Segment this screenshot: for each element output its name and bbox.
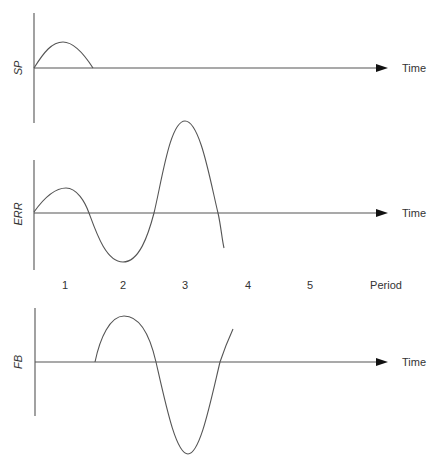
period-axis: 1 2 3 4 5 Period bbox=[62, 279, 402, 291]
period-tick-4: 4 bbox=[245, 279, 251, 291]
period-tick-5: 5 bbox=[307, 279, 313, 291]
err-ylabel: ERR bbox=[12, 202, 24, 225]
fb-time-label: Time bbox=[402, 356, 426, 368]
fb-ylabel: FB bbox=[12, 355, 24, 369]
period-tick-2: 2 bbox=[120, 279, 126, 291]
sp-time-label: Time bbox=[402, 62, 426, 74]
period-tick-1: 1 bbox=[62, 279, 68, 291]
err-curve bbox=[34, 121, 224, 262]
err-time-label: Time bbox=[402, 207, 426, 219]
sp-arrow-icon bbox=[376, 64, 388, 72]
sp-curve bbox=[34, 42, 93, 68]
fb-plot: FB Time bbox=[12, 308, 426, 454]
fb-arrow-icon bbox=[376, 358, 388, 366]
err-plot: ERR Time bbox=[12, 121, 426, 270]
period-tick-3: 3 bbox=[182, 279, 188, 291]
sp-plot: SP Time bbox=[12, 13, 426, 123]
fb-curve bbox=[95, 316, 233, 454]
period-label: Period bbox=[370, 279, 402, 291]
err-arrow-icon bbox=[376, 209, 388, 217]
sp-ylabel: SP bbox=[12, 60, 24, 75]
timing-diagram: SP Time ERR Time 1 2 3 4 5 Period FB Tim… bbox=[0, 0, 440, 470]
